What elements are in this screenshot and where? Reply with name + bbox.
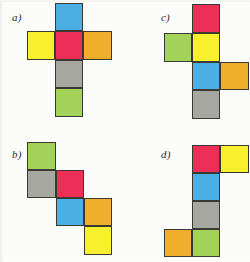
panel-b-cell-blue <box>56 198 84 226</box>
page-edge-left <box>0 0 3 262</box>
panel-b-cell-green <box>27 142 56 170</box>
panel-c-cell-green <box>164 33 192 62</box>
page-edge-top <box>0 0 250 2</box>
panel-c-cell-blue <box>192 62 220 90</box>
panel-a-cell-gray <box>55 60 83 88</box>
panel-a-cell-red <box>55 31 83 60</box>
panel-d-cell-orange <box>164 229 192 257</box>
panel-d-cell-red <box>192 145 220 173</box>
panel-label-c: c) <box>161 11 170 23</box>
panel-a-cell-yellow <box>27 31 55 60</box>
panel-b-cell-yellow <box>84 226 112 255</box>
panel-d-cell-blue <box>192 173 220 201</box>
panel-label-d: d) <box>161 148 171 160</box>
panel-c-cell-gray <box>192 90 220 119</box>
panel-d-cell-yellow <box>220 145 249 173</box>
panel-c-cell-red <box>192 4 220 33</box>
cube-net-figure: a)c)b)d) <box>0 0 250 262</box>
panel-label-b: b) <box>12 148 22 160</box>
panel-a-cell-green <box>55 88 83 117</box>
panel-b-cell-gray <box>27 170 56 198</box>
panel-a-cell-orange <box>83 31 112 60</box>
panel-b-cell-orange <box>84 198 112 226</box>
panel-c-cell-yellow <box>192 33 220 62</box>
panel-b-cell-red <box>56 170 84 198</box>
panel-a-cell-blue <box>55 3 83 31</box>
panel-d-cell-green <box>192 229 220 257</box>
panel-label-a: a) <box>12 11 22 23</box>
panel-d-cell-gray <box>192 201 220 229</box>
panel-c-cell-orange <box>220 62 249 90</box>
